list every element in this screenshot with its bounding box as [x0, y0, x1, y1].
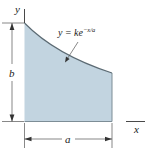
- exponential-area-figure: y x b a y=ke−x/a: [0, 0, 148, 154]
- dim-label-a: a: [65, 133, 71, 145]
- dim-arrow-down: [10, 115, 15, 122]
- dim-arrow-left: [25, 137, 32, 141]
- equation-lhs: y: [57, 27, 63, 38]
- equation-equals: =: [65, 27, 71, 38]
- x-axis-label: x: [133, 123, 139, 135]
- equation-label: y=ke−x/a: [57, 26, 95, 38]
- dim-arrow-up: [10, 23, 15, 30]
- dim-arrow-right: [105, 137, 112, 141]
- y-axis-label: y: [14, 3, 20, 15]
- equation-exponent: −x/a: [83, 26, 95, 33]
- dim-label-b: b: [9, 67, 15, 79]
